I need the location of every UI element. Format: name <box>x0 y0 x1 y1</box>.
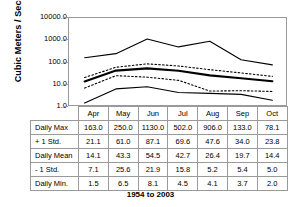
figure-caption: 1954 to 2003 <box>0 190 301 199</box>
table-column-header: Sep <box>227 107 257 121</box>
table-cell: 250.0 <box>108 121 138 135</box>
table-column-header: Oct <box>257 107 287 121</box>
table-column-header: Aug <box>198 107 228 121</box>
table-cell: 163.0 <box>79 121 109 135</box>
table-cell: 906.0 <box>198 121 228 135</box>
table-cell: 7.1 <box>79 163 109 177</box>
table-cell: 47.6 <box>198 135 228 149</box>
table-cell: 1.5 <box>79 177 109 191</box>
table-cell: 26.4 <box>198 149 228 163</box>
series-line <box>85 68 273 81</box>
table-cell: 14.4 <box>257 149 287 163</box>
table-cell: 25.6 <box>108 163 138 177</box>
table-column-header: May <box>108 107 138 121</box>
series-line <box>85 39 273 65</box>
table-row-header: + 1 Std. <box>31 135 79 149</box>
y-tick-label: 10000.0 <box>31 13 67 21</box>
table-cell: 78.1 <box>257 121 287 135</box>
table-cell: 15.8 <box>168 163 198 177</box>
table-cell: 61.0 <box>108 135 138 149</box>
table-cell: 133.0 <box>227 121 257 135</box>
table-row-header: Daily Max <box>31 121 79 135</box>
table-column-header: Apr <box>79 107 109 121</box>
figure-container: Cubic Meters / Second 10000.01000.0100.0… <box>0 0 301 207</box>
table-cell: 4.1 <box>198 177 228 191</box>
series-lines <box>69 18 288 107</box>
table-header-row: AprMayJunJulAugSepOct <box>31 107 288 121</box>
y-axis-tick-labels: 10000.01000.0100.010.01.0 <box>31 12 67 112</box>
table-cell: 23.8 <box>257 135 287 149</box>
y-tick-label: 10.0 <box>31 80 67 88</box>
table-cell: 3.7 <box>227 177 257 191</box>
y-axis-title: Cubic Meters / Second <box>11 0 25 83</box>
table-row: - 1 Std.7.125.621.915.85.25.45.0 <box>31 163 288 177</box>
table-cell: 502.0 <box>168 121 198 135</box>
table-row: Daily Max163.0250.01130.0502.0906.0133.0… <box>31 121 288 135</box>
table-cell: 4.5 <box>168 177 198 191</box>
table-cell: 87.1 <box>138 135 168 149</box>
table-cell: 19.7 <box>227 149 257 163</box>
y-tick-label: 100.0 <box>31 58 67 66</box>
table-body: Daily Max163.0250.01130.0502.0906.0133.0… <box>31 121 288 191</box>
table-cell: 21.9 <box>138 163 168 177</box>
table-cell: 5.4 <box>227 163 257 177</box>
table-row-header: Daily Mean <box>31 149 79 163</box>
plot-area <box>68 17 287 106</box>
table-cell: 21.1 <box>79 135 109 149</box>
table-cell: 34.0 <box>227 135 257 149</box>
table-row-header: Daily Min. <box>31 177 79 191</box>
table-cell: 43.3 <box>108 149 138 163</box>
table-cell: 8.1 <box>138 177 168 191</box>
data-table: AprMayJunJulAugSepOct Daily Max163.0250.… <box>30 106 288 191</box>
table-column-header: Jul <box>168 107 198 121</box>
table-cell: 69.6 <box>168 135 198 149</box>
table-cell: 54.5 <box>138 149 168 163</box>
table-cell: 5.2 <box>198 163 228 177</box>
table-cell: 2.0 <box>257 177 287 191</box>
table-column-header: Jun <box>138 107 168 121</box>
y-tick-label: 1000.0 <box>31 35 67 43</box>
table-row-header: - 1 Std. <box>31 163 79 177</box>
table-cell: 6.5 <box>108 177 138 191</box>
table-cell: 42.7 <box>168 149 198 163</box>
table-row: Daily Min.1.56.58.14.54.13.72.0 <box>31 177 288 191</box>
table-cell: 1130.0 <box>138 121 168 135</box>
table-cell: 14.1 <box>79 149 109 163</box>
table-row: + 1 Std.21.161.087.169.647.634.023.8 <box>31 135 288 149</box>
series-line <box>85 87 273 103</box>
table-cell: 5.0 <box>257 163 287 177</box>
table-corner-cell <box>31 107 79 121</box>
table-row: Daily Mean14.143.354.542.726.419.714.4 <box>31 149 288 163</box>
